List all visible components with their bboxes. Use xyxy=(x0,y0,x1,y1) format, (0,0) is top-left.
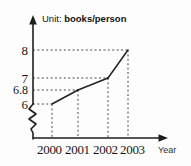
x-axis-arrow-icon xyxy=(159,134,169,142)
x-axis xyxy=(33,134,168,142)
unit-caption: Unit: books/person xyxy=(42,14,126,24)
y-tick-label-8: 8 xyxy=(8,44,28,57)
data-point-2002 xyxy=(107,77,109,79)
line-chart-figure: Unit: books/person 8 7 6.8 6 2000 2001 2… xyxy=(0,0,191,166)
y-tick-label-6: 6 xyxy=(8,98,28,111)
y-tick-label-6p8: 6.8 xyxy=(2,84,28,96)
x-tick-label-2001: 2001 xyxy=(65,143,90,156)
horizontal-guides xyxy=(33,50,128,104)
x-tick-label-2000: 2000 xyxy=(37,143,62,156)
vertical-guides xyxy=(52,50,128,138)
unit-value-label: books/person xyxy=(64,13,126,24)
x-tick-label-2002: 2002 xyxy=(93,143,118,156)
y-axis-break-zigzag xyxy=(29,104,36,139)
x-axis-title: Year xyxy=(158,146,176,155)
data-point-2001 xyxy=(77,89,79,91)
data-series-line xyxy=(52,50,128,104)
x-tick-label-2003: 2003 xyxy=(120,143,145,156)
y-axis xyxy=(29,15,37,139)
y-axis-arrow-icon xyxy=(29,15,37,25)
unit-prefix-label: Unit: xyxy=(42,13,62,24)
